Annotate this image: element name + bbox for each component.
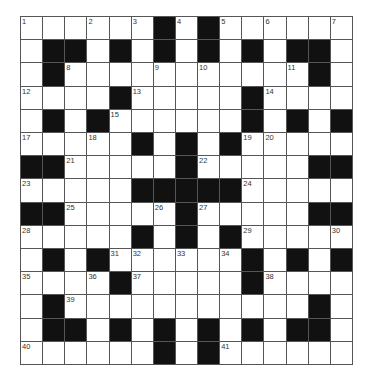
letter-square[interactable]: 31	[110, 249, 131, 271]
letter-square[interactable]	[309, 249, 330, 271]
letter-square[interactable]	[110, 133, 131, 155]
letter-square[interactable]: 2	[87, 17, 108, 39]
letter-square[interactable]	[110, 63, 131, 85]
letter-square[interactable]	[198, 133, 219, 155]
letter-square[interactable]	[21, 110, 42, 132]
letter-square[interactable]	[154, 156, 175, 178]
letter-square[interactable]	[87, 40, 108, 62]
letter-square[interactable]	[110, 226, 131, 248]
letter-square[interactable]	[65, 110, 86, 132]
letter-square[interactable]: 7	[331, 17, 352, 39]
letter-square[interactable]	[110, 203, 131, 225]
letter-square[interactable]	[309, 226, 330, 248]
letter-square[interactable]: 23	[21, 179, 42, 201]
letter-square[interactable]	[65, 249, 86, 271]
letter-square[interactable]	[331, 272, 352, 294]
letter-square[interactable]: 35	[21, 272, 42, 294]
letter-square[interactable]: 6	[264, 17, 285, 39]
letter-square[interactable]	[309, 17, 330, 39]
letter-square[interactable]	[65, 17, 86, 39]
letter-square[interactable]: 9	[154, 63, 175, 85]
letter-square[interactable]	[65, 87, 86, 109]
letter-square[interactable]	[87, 342, 108, 364]
letter-square[interactable]	[65, 272, 86, 294]
letter-square[interactable]	[264, 203, 285, 225]
letter-square[interactable]	[242, 203, 263, 225]
letter-square[interactable]: 1	[21, 17, 42, 39]
letter-square[interactable]	[242, 17, 263, 39]
letter-square[interactable]	[198, 295, 219, 317]
letter-square[interactable]	[287, 133, 308, 155]
letter-square[interactable]: 30	[331, 226, 352, 248]
letter-square[interactable]: 27	[198, 203, 219, 225]
letter-square[interactable]	[220, 40, 241, 62]
letter-square[interactable]	[65, 226, 86, 248]
letter-square[interactable]	[21, 63, 42, 85]
letter-square[interactable]	[264, 249, 285, 271]
letter-square[interactable]	[43, 272, 64, 294]
letter-square[interactable]	[176, 87, 197, 109]
letter-square[interactable]	[287, 156, 308, 178]
letter-square[interactable]: 5	[220, 17, 241, 39]
letter-square[interactable]	[176, 63, 197, 85]
letter-square[interactable]	[242, 156, 263, 178]
letter-square[interactable]: 13	[132, 87, 153, 109]
letter-square[interactable]	[110, 179, 131, 201]
letter-square[interactable]: 14	[264, 87, 285, 109]
letter-square[interactable]	[132, 110, 153, 132]
letter-square[interactable]	[21, 249, 42, 271]
letter-square[interactable]	[220, 203, 241, 225]
letter-square[interactable]	[264, 226, 285, 248]
letter-square[interactable]	[176, 319, 197, 341]
letter-square[interactable]: 15	[110, 110, 131, 132]
letter-square[interactable]	[176, 40, 197, 62]
letter-square[interactable]	[87, 226, 108, 248]
letter-square[interactable]	[242, 342, 263, 364]
letter-square[interactable]: 38	[264, 272, 285, 294]
letter-square[interactable]	[287, 203, 308, 225]
letter-square[interactable]	[176, 342, 197, 364]
letter-square[interactable]	[132, 319, 153, 341]
letter-square[interactable]	[154, 249, 175, 271]
letter-square[interactable]	[21, 295, 42, 317]
letter-square[interactable]: 24	[242, 179, 263, 201]
letter-square[interactable]	[220, 295, 241, 317]
letter-square[interactable]	[309, 342, 330, 364]
letter-square[interactable]: 10	[198, 63, 219, 85]
letter-square[interactable]	[220, 63, 241, 85]
letter-square[interactable]	[331, 342, 352, 364]
letter-square[interactable]: 4	[176, 17, 197, 39]
letter-square[interactable]	[264, 319, 285, 341]
letter-square[interactable]	[65, 342, 86, 364]
letter-square[interactable]: 39	[65, 295, 86, 317]
letter-square[interactable]	[65, 179, 86, 201]
letter-square[interactable]: 32	[132, 249, 153, 271]
letter-square[interactable]	[87, 63, 108, 85]
letter-square[interactable]	[154, 110, 175, 132]
letter-square[interactable]	[132, 203, 153, 225]
letter-square[interactable]: 28	[21, 226, 42, 248]
letter-square[interactable]	[176, 295, 197, 317]
letter-square[interactable]	[43, 87, 64, 109]
letter-square[interactable]	[287, 179, 308, 201]
letter-square[interactable]	[110, 156, 131, 178]
letter-square[interactable]	[132, 63, 153, 85]
letter-square[interactable]: 41	[220, 342, 241, 364]
letter-square[interactable]	[43, 133, 64, 155]
letter-square[interactable]	[110, 17, 131, 39]
letter-square[interactable]	[198, 87, 219, 109]
letter-square[interactable]	[176, 110, 197, 132]
letter-square[interactable]	[110, 342, 131, 364]
letter-square[interactable]	[43, 17, 64, 39]
letter-square[interactable]	[331, 63, 352, 85]
letter-square[interactable]	[21, 319, 42, 341]
letter-square[interactable]	[309, 272, 330, 294]
letter-square[interactable]	[264, 295, 285, 317]
letter-square[interactable]	[331, 133, 352, 155]
letter-square[interactable]: 36	[87, 272, 108, 294]
letter-square[interactable]	[220, 110, 241, 132]
letter-square[interactable]: 18	[87, 133, 108, 155]
letter-square[interactable]	[287, 295, 308, 317]
letter-square[interactable]: 33	[176, 249, 197, 271]
letter-square[interactable]	[287, 226, 308, 248]
